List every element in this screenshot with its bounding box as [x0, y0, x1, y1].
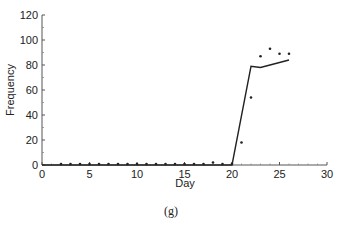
- x-tick-label: 5: [86, 168, 92, 180]
- data-point: [98, 163, 101, 166]
- data-point: [155, 163, 158, 166]
- data-point: [231, 162, 234, 165]
- x-tick-label: 20: [226, 168, 238, 180]
- chart: 020406080100120 051015202530 Frequency D…: [0, 0, 342, 228]
- data-point: [221, 163, 224, 166]
- y-tick-label: 60: [26, 84, 38, 96]
- y-tick-label: 120: [20, 9, 38, 21]
- data-point: [240, 141, 243, 144]
- data-point: [126, 163, 129, 166]
- data-point: [212, 161, 215, 164]
- data-point: [193, 163, 196, 166]
- x-tick-label: 0: [39, 168, 45, 180]
- data-point: [278, 52, 281, 55]
- y-tick-label: 40: [26, 109, 38, 121]
- data-point: [136, 163, 139, 166]
- data-point: [183, 163, 186, 166]
- data-point: [288, 52, 291, 55]
- y-tick-label: 100: [20, 34, 38, 46]
- x-tick-label: 25: [273, 168, 285, 180]
- plot-area: [42, 47, 290, 165]
- y-tick-label: 20: [26, 134, 38, 146]
- data-point: [174, 163, 177, 166]
- data-point: [250, 96, 253, 99]
- x-axis-label: Day: [175, 177, 195, 189]
- data-point: [88, 163, 91, 166]
- y-tick-label: 80: [26, 59, 38, 71]
- y-axis-label: Frequency: [4, 64, 16, 116]
- data-point: [164, 163, 167, 166]
- data-point: [69, 163, 72, 166]
- data-point: [79, 163, 82, 166]
- x-tick-label: 30: [321, 168, 333, 180]
- figure-caption: (g): [164, 204, 178, 218]
- data-point: [259, 55, 262, 58]
- data-point: [145, 163, 148, 166]
- data-point: [107, 163, 110, 166]
- data-point: [202, 163, 205, 166]
- y-tick-label: 0: [32, 159, 38, 171]
- model-line: [42, 60, 289, 165]
- y-axis: 020406080100120: [20, 9, 45, 171]
- data-point: [60, 163, 63, 166]
- data-point: [269, 47, 272, 50]
- data-point: [117, 163, 120, 166]
- x-tick-label: 10: [131, 168, 143, 180]
